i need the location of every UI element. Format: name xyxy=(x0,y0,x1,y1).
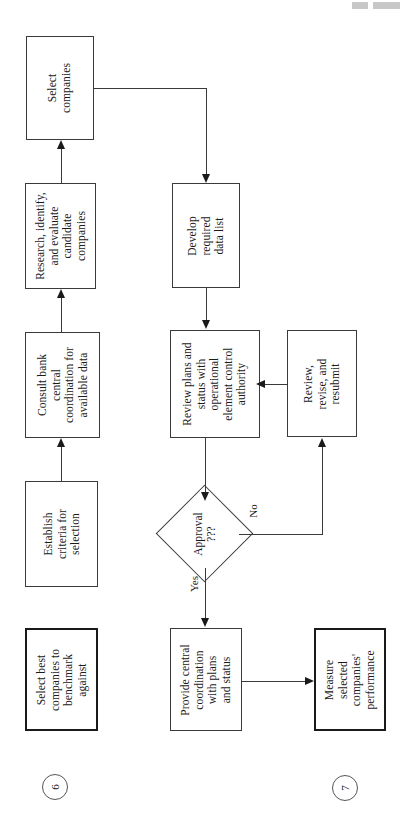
edge-select-to-develop-arrow xyxy=(202,174,210,183)
edge-yes-vertical xyxy=(205,568,206,620)
node-approval-decision[interactable]: Approval??? xyxy=(170,499,239,568)
node-provide-coordination[interactable]: Provide centralcoordinationwith plansand… xyxy=(170,628,242,731)
page-marker-7-label: 7 xyxy=(339,785,351,791)
node-consult-bank-label: Consult bankcentralcoordination foravail… xyxy=(35,347,89,423)
node-review-plans[interactable]: Review plans andstatus withoperationalel… xyxy=(170,330,260,438)
edge-label-yes: Yes xyxy=(186,578,202,590)
edge-provide-to-measure-arrow xyxy=(305,677,314,685)
edge-revise-to-review-arrow xyxy=(256,380,265,388)
node-measure-performance-label: Measureselectedcompanies'performance xyxy=(323,650,377,709)
edge-review-to-approval-arrow xyxy=(201,492,209,501)
edge-establish-to-consult xyxy=(61,443,62,481)
edge-select-to-develop-horizontal xyxy=(94,88,206,89)
node-select-best-companies-label: Select bestcompanies tobenchmarkagainst xyxy=(34,648,88,710)
edge-provide-to-measure xyxy=(242,681,306,682)
node-establish-criteria[interactable]: Establishcriteria forselection xyxy=(25,481,98,587)
flowchart-canvas: Selectcompanies Research, identify,and e… xyxy=(0,0,406,816)
edge-no-arrow xyxy=(318,438,326,447)
node-review-plans-label: Review plans andstatus withoperationalel… xyxy=(181,342,249,425)
edge-review-to-approval xyxy=(205,438,206,494)
page-header-artifact xyxy=(352,2,400,9)
page-marker-6: 6 xyxy=(42,774,68,800)
edge-no-horizontal xyxy=(239,534,322,535)
edge-research-to-select-arrow xyxy=(57,140,65,149)
node-develop-data-list-label: Developrequireddata list xyxy=(186,216,227,256)
edge-select-to-develop-vertical xyxy=(206,88,207,176)
node-approval-decision-label: Approval??? xyxy=(191,512,217,555)
edge-consult-to-research-arrow xyxy=(57,289,65,298)
node-develop-data-list[interactable]: Developrequireddata list xyxy=(172,183,240,288)
edge-revise-to-review xyxy=(264,384,287,385)
node-measure-performance[interactable]: Measureselectedcompanies'performance xyxy=(314,628,386,731)
node-research-candidates[interactable]: Research, identify,and evaluatecandidate… xyxy=(25,183,96,289)
edge-label-no: No xyxy=(246,505,259,517)
node-consult-bank[interactable]: Consult bankcentralcoordination foravail… xyxy=(25,332,100,438)
edge-label-yes-text: Yes xyxy=(188,576,200,592)
edge-no-vertical xyxy=(322,447,323,535)
edge-consult-to-research xyxy=(61,294,62,332)
node-establish-criteria-label: Establishcriteria forselection xyxy=(41,509,82,559)
node-review-revise[interactable]: Review,revise, andresubmit xyxy=(287,330,357,437)
node-review-revise-label: Review,revise, andresubmit xyxy=(302,358,343,409)
node-research-candidates-label: Research, identify,and evaluatecandidate… xyxy=(33,192,87,280)
node-select-best-companies[interactable]: Select bestcompanies tobenchmarkagainst xyxy=(25,628,98,731)
edge-yes-arrow xyxy=(201,618,209,627)
node-select-companies[interactable]: Selectcompanies xyxy=(26,36,94,140)
page-marker-6-label: 6 xyxy=(49,784,61,790)
edge-label-no-text: No xyxy=(247,504,259,517)
edge-research-to-select xyxy=(61,145,62,183)
edge-establish-to-consult-arrow xyxy=(57,438,65,447)
edge-develop-to-review-arrow xyxy=(202,320,210,329)
page-marker-7: 7 xyxy=(332,775,358,801)
node-provide-coordination-label: Provide centralcoordinationwith plansand… xyxy=(179,644,233,715)
edge-develop-to-review xyxy=(206,288,207,322)
node-select-companies-label: Selectcompanies xyxy=(46,63,73,113)
